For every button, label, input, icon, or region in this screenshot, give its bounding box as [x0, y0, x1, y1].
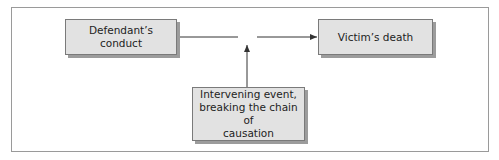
node-victims-death: Victim’s death — [318, 19, 433, 55]
node-defendants-conduct: Defendant’s conduct — [65, 19, 177, 55]
node-label: Victim’s death — [338, 31, 413, 44]
node-label: Defendant’s conduct — [89, 24, 153, 50]
node-intervening-event: Intervening event, breaking the chain of… — [192, 87, 305, 141]
node-label: Intervening event, breaking the chain of… — [193, 88, 304, 140]
